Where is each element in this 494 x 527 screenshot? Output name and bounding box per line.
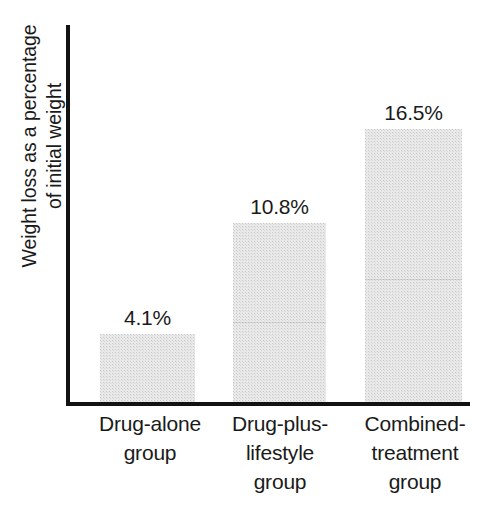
category-label-drug-plus-lifestyle-line-2: lifestyle — [210, 438, 350, 467]
category-label-drug-plus-lifestyle-line-1: Drug-plus- — [210, 409, 350, 438]
category-label-combined-treatment-line-2: treatment — [340, 438, 490, 467]
bar-value-drug-alone: 4.1% — [124, 307, 171, 328]
category-label-drug-alone-line-1: Drug-alone — [80, 409, 220, 438]
category-label-drug-plus-lifestyle-line-3: group — [210, 467, 350, 496]
y-axis-label-line-2: of initial weight — [42, 83, 67, 209]
bar-group-combined-treatment: 16.5% — [365, 25, 462, 402]
category-label-drug-alone: Drug-alone group — [80, 409, 220, 467]
bar-combined-treatment[interactable] — [365, 129, 462, 402]
bar-value-combined-treatment: 16.5% — [384, 102, 443, 123]
category-label-drug-plus-lifestyle: Drug-plus- lifestyle group — [210, 409, 350, 496]
x-axis-line — [66, 402, 470, 406]
plot-area: 4.1% 10.8% 16.5% — [70, 25, 470, 402]
bar-drug-alone[interactable] — [100, 334, 195, 402]
bar-group-drug-plus-lifestyle: 10.8% — [233, 25, 326, 402]
bar-drug-plus-lifestyle[interactable] — [233, 223, 326, 402]
category-label-drug-alone-line-2: group — [80, 438, 220, 467]
category-label-combined-treatment: Combined- treatment group — [340, 409, 490, 496]
category-label-combined-treatment-line-1: Combined- — [340, 409, 490, 438]
y-axis-label-line-1: Weight loss as a percentage — [17, 25, 42, 268]
y-axis-label: Weight loss as a percentage of initial w… — [14, 12, 70, 280]
category-label-combined-treatment-line-3: group — [340, 467, 490, 496]
bar-chart-figure: Weight loss as a percentage of initial w… — [0, 0, 494, 527]
x-axis-category-labels: Drug-alone group Drug-plus- lifestyle gr… — [70, 409, 470, 524]
bar-group-drug-alone: 4.1% — [100, 25, 195, 402]
bar-value-drug-plus-lifestyle: 10.8% — [250, 196, 309, 217]
